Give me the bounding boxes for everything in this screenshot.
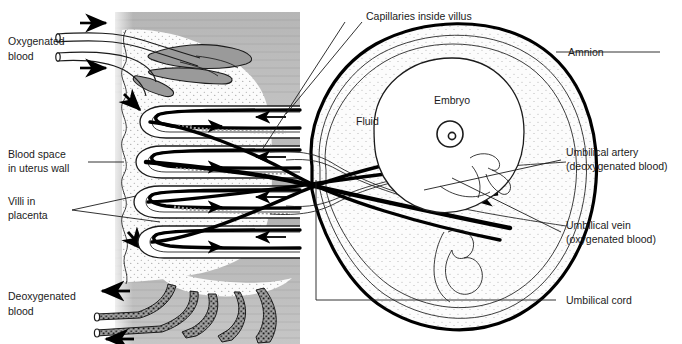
- label-line: (oxygenated blood): [566, 233, 656, 245]
- label-line: blood: [8, 305, 34, 317]
- embryo-eye-inner: [448, 132, 455, 139]
- label-capillaries-inside-villus: Capillaries inside villus: [366, 10, 472, 22]
- label-line: (deoxygenated blood): [566, 160, 668, 172]
- label-line: Umbilical vein: [566, 219, 631, 231]
- label-line: blood: [8, 50, 34, 62]
- label-line: Oxygenated: [8, 35, 65, 47]
- label-line: Capillaries inside villus: [366, 10, 472, 22]
- label-line: Amnion: [568, 46, 604, 58]
- placenta-embryo-diagram: Oxygenated blood Blood space in uterus w…: [0, 0, 682, 344]
- diagram-canvas: Oxygenated blood Blood space in uterus w…: [0, 0, 682, 344]
- label-line: Umbilical cord: [566, 294, 632, 306]
- label-fluid: Fluid: [356, 115, 379, 127]
- label-line: placenta: [8, 209, 48, 221]
- villus: [140, 106, 300, 138]
- label-deoxygenated-blood: Deoxygenated blood: [8, 290, 76, 317]
- label-amnion: Amnion: [568, 46, 604, 58]
- label-line: Deoxygenated: [8, 290, 76, 302]
- label-blood-space: Blood space in uterus wall: [8, 148, 69, 174]
- label-line: Umbilical artery: [566, 146, 639, 158]
- label-line: Blood space: [8, 148, 66, 160]
- label-embryo: Embryo: [434, 94, 470, 106]
- label-line: Villi in: [8, 195, 35, 207]
- label-umbilical-cord: Umbilical cord: [566, 294, 632, 306]
- label-line: in uterus wall: [8, 162, 69, 174]
- label-villi-in-placenta: Villi in placenta: [8, 195, 48, 221]
